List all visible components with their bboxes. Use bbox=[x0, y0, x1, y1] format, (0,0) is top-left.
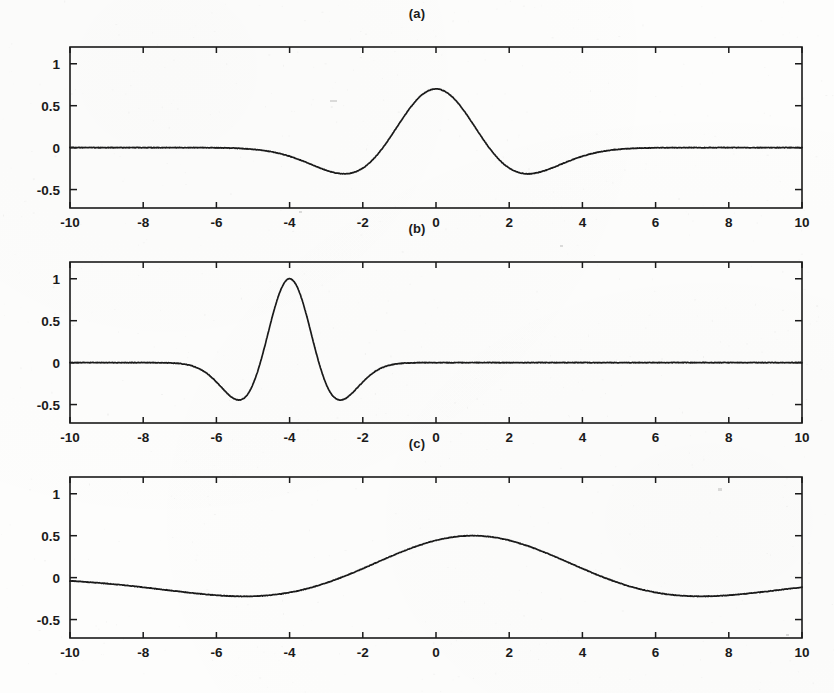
panel-b-plot: -10-8-6-4-2024681010.50-0.5 bbox=[0, 215, 834, 446]
x-tick-label: -2 bbox=[357, 645, 369, 660]
y-tick-label: 0 bbox=[52, 141, 60, 156]
y-tick-label: 1 bbox=[52, 57, 60, 72]
y-tick-label: -0.5 bbox=[37, 613, 61, 628]
figure-container: (a) -10-8-6-4-2024681010.50-0.5 (b) -10-… bbox=[0, 0, 834, 693]
wavelet-curve bbox=[70, 279, 802, 401]
x-tick-label: -4 bbox=[284, 645, 296, 660]
panel-c-plot: -10-8-6-4-2024681010.50-0.5 bbox=[0, 430, 834, 661]
x-tick-label: -6 bbox=[210, 645, 222, 660]
y-tick-label: 0.5 bbox=[41, 529, 60, 544]
y-tick-label: 0.5 bbox=[41, 99, 60, 114]
panel-b: (b) -10-8-6-4-2024681010.50-0.5 bbox=[0, 215, 834, 446]
y-tick-label: -0.5 bbox=[37, 183, 61, 198]
y-tick-label: 0 bbox=[52, 356, 60, 371]
y-tick-label: 0 bbox=[52, 571, 60, 586]
panel-a: (a) -10-8-6-4-2024681010.50-0.5 bbox=[0, 0, 834, 231]
x-tick-label: -8 bbox=[137, 645, 149, 660]
y-tick-label: 0.5 bbox=[41, 314, 60, 329]
y-tick-label: -0.5 bbox=[37, 398, 61, 413]
plot-frame bbox=[70, 262, 802, 423]
y-tick-label: 1 bbox=[52, 272, 60, 287]
x-tick-label: 4 bbox=[579, 645, 587, 660]
x-tick-label: 2 bbox=[505, 645, 513, 660]
x-tick-label: 0 bbox=[432, 645, 440, 660]
x-tick-label: 10 bbox=[794, 645, 809, 660]
wavelet-curve bbox=[70, 535, 802, 596]
x-tick-label: -10 bbox=[60, 645, 80, 660]
x-tick-label: 8 bbox=[725, 645, 733, 660]
y-tick-label: 1 bbox=[52, 487, 60, 502]
plot-frame bbox=[70, 477, 802, 638]
wavelet-curve bbox=[70, 89, 802, 174]
plot-frame bbox=[70, 47, 802, 208]
panel-a-plot: -10-8-6-4-2024681010.50-0.5 bbox=[0, 0, 834, 231]
panel-c: (c) -10-8-6-4-2024681010.50-0.5 bbox=[0, 430, 834, 661]
x-tick-label: 6 bbox=[652, 645, 660, 660]
